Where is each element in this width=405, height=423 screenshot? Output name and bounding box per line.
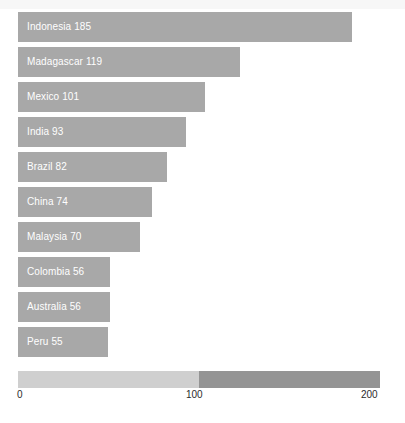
bar-row: India 93: [0, 117, 405, 147]
colorbar-segment-low: [18, 371, 199, 388]
bar-madagascar[interactable]: Madagascar 119: [18, 47, 240, 77]
colorbar-tick-200: 200: [361, 389, 378, 401]
bar-row: Australia 56: [0, 292, 405, 322]
bar-label: Mexico 101: [18, 92, 79, 102]
bar-label: China 74: [18, 197, 68, 207]
bar-peru[interactable]: Peru 55: [18, 327, 108, 357]
bar-row: Malaysia 70: [0, 222, 405, 252]
bar-malaysia[interactable]: Malaysia 70: [18, 222, 140, 252]
bar-row: Mexico 101: [0, 82, 405, 112]
bar-label: Madagascar 119: [18, 57, 102, 67]
bar-label: Australia 56: [18, 302, 81, 312]
bar-row: Indonesia 185: [0, 12, 405, 42]
top-background-band: [0, 0, 405, 9]
bar-row: Madagascar 119: [0, 47, 405, 77]
colorbar-tick-0: 0: [17, 389, 23, 401]
bar-brazil[interactable]: Brazil 82: [18, 152, 167, 182]
bar-label: Indonesia 185: [18, 22, 91, 32]
bar-india[interactable]: India 93: [18, 117, 186, 147]
bar-label: Malaysia 70: [18, 232, 81, 242]
colorbar-tick-100: 100: [186, 389, 203, 401]
horizontal-bar-chart: Indonesia 185 Madagascar 119 Mexico 101 …: [0, 0, 405, 423]
colorbar-segment-high: [199, 371, 380, 388]
plot-area: Indonesia 185 Madagascar 119 Mexico 101 …: [0, 12, 405, 352]
bar-label: Peru 55: [18, 337, 63, 347]
colorbar-legend: [18, 371, 380, 388]
bar-row: China 74: [0, 187, 405, 217]
bar-label: Brazil 82: [18, 162, 67, 172]
colorbar-tick-labels: 0 100 200: [0, 389, 405, 405]
bar-label: India 93: [18, 127, 63, 137]
bar-china[interactable]: China 74: [18, 187, 152, 217]
bar-mexico[interactable]: Mexico 101: [18, 82, 205, 112]
bar-colombia[interactable]: Colombia 56: [18, 257, 110, 287]
bar-row: Brazil 82: [0, 152, 405, 182]
bar-row: Peru 55: [0, 327, 405, 357]
bar-label: Colombia 56: [18, 267, 84, 277]
bar-row: Colombia 56: [0, 257, 405, 287]
bar-australia[interactable]: Australia 56: [18, 292, 110, 322]
bar-indonesia[interactable]: Indonesia 185: [18, 12, 352, 42]
